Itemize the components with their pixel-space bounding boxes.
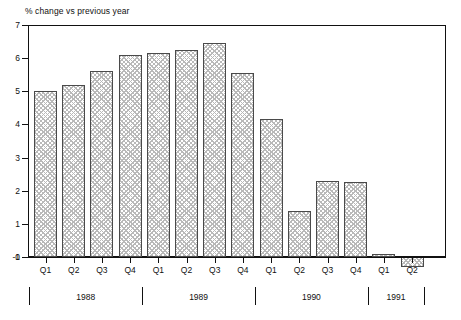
bar [34, 91, 57, 257]
x-axis-tick [384, 258, 385, 263]
x-axis-tick-label: Q2 [397, 265, 427, 275]
y-axis-tick-label: 7 [0, 21, 20, 30]
bar [344, 182, 367, 257]
bar [231, 73, 254, 257]
bar [260, 119, 283, 257]
y-axis-tick-label: 5 [0, 87, 20, 96]
x-axis-tick-label: Q2 [172, 265, 202, 275]
x-axis-tick [356, 258, 357, 263]
x-axis-tick-label: Q4 [341, 265, 371, 275]
x-axis-tick [271, 258, 272, 263]
bar [316, 181, 339, 257]
bar [62, 85, 85, 257]
x-axis-tick-label: Q4 [228, 265, 258, 275]
x-axis-tick [412, 258, 413, 263]
x-axis-tick [102, 258, 103, 263]
year-label: 1989 [169, 292, 229, 302]
y-axis-tick-label: -1 [0, 253, 20, 262]
y-axis-tick-label: 4 [0, 120, 20, 129]
y-axis-tick-label: 3 [0, 154, 20, 163]
x-axis-tick [187, 258, 188, 263]
bar [288, 211, 311, 257]
bar [203, 43, 226, 257]
y-axis-tick-label: 2 [0, 187, 20, 196]
year-separator [29, 287, 30, 305]
bar [90, 71, 113, 257]
x-axis-tick-label: Q3 [200, 265, 230, 275]
y-axis-tick-label: 1 [0, 220, 20, 229]
bar [147, 53, 170, 257]
year-separator [424, 287, 425, 305]
x-axis-tick [46, 258, 47, 263]
x-axis-tick [158, 258, 159, 263]
year-label: 1991 [366, 292, 426, 302]
x-axis-tick [130, 258, 131, 263]
x-axis-tick-label: Q4 [115, 265, 145, 275]
y-axis-title: % change vs previous year [25, 6, 130, 16]
bar [119, 55, 142, 257]
x-axis-tick [215, 258, 216, 263]
x-axis-tick-label: Q1 [143, 265, 173, 275]
x-axis-tick-label: Q2 [59, 265, 89, 275]
bars-container [28, 25, 446, 257]
bar-chart: % change vs previous year 76543210-1 Q1Q… [0, 0, 461, 320]
x-axis-tick-label: Q1 [256, 265, 286, 275]
year-separator [255, 287, 256, 305]
year-label: 1988 [56, 292, 116, 302]
x-axis-tick-label: Q2 [284, 265, 314, 275]
x-axis-tick [74, 258, 75, 263]
year-label: 1990 [281, 292, 341, 302]
x-axis-tick [328, 258, 329, 263]
x-axis-tick-label: Q1 [369, 265, 399, 275]
bar [175, 50, 198, 257]
x-axis-tick-label: Q3 [313, 265, 343, 275]
x-axis-tick [243, 258, 244, 263]
x-axis-tick-label: Q1 [31, 265, 61, 275]
x-axis-tick [299, 258, 300, 263]
x-axis-tick-label: Q3 [87, 265, 117, 275]
year-separator [142, 287, 143, 305]
y-axis-tick-label: 6 [0, 54, 20, 63]
